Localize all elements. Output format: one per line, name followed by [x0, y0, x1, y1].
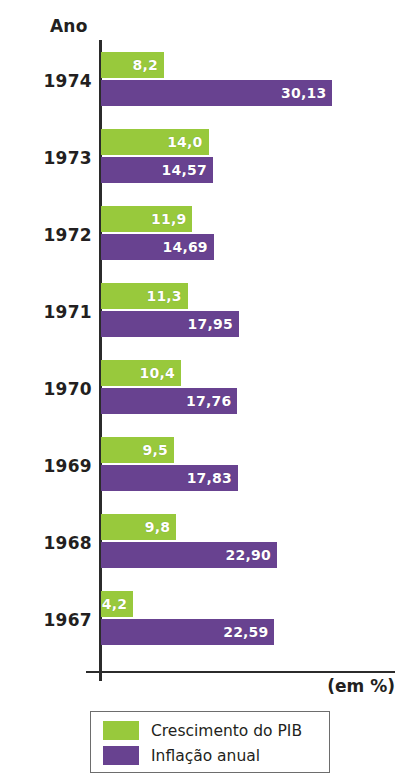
bar-inflacao-1974: 30,13	[101, 80, 332, 106]
bar-group: 19748,230,13	[0, 52, 417, 106]
bar-inflacao-1968: 22,90	[101, 542, 277, 568]
bar-pib-1969: 9,5	[101, 437, 174, 463]
bar-group: 197211,914,69	[0, 206, 417, 260]
bar-pib-1973: 14,0	[101, 129, 209, 155]
bar-value-label: 11,3	[146, 288, 181, 304]
bar-group: 19699,517,83	[0, 437, 417, 491]
legend-label-crescimento-do-pib: Crescimento do PIB	[151, 722, 302, 740]
bar-pib-1974: 8,2	[101, 52, 164, 78]
bar-group: 19674,222,59	[0, 591, 417, 645]
bar-value-label: 11,9	[151, 211, 186, 227]
axis-header-ano: Ano	[50, 16, 96, 36]
bar-inflacao-1969: 17,83	[101, 465, 238, 491]
bar-value-label: 4,2	[102, 596, 127, 612]
bar-group: 197010,417,76	[0, 360, 417, 414]
category-label-1971: 1971	[10, 302, 92, 322]
chart-legend: Crescimento do PIB Inflação anual	[90, 711, 330, 773]
bar-pib-1972: 11,9	[101, 206, 192, 232]
unit-note: (em %)	[327, 676, 395, 696]
bar-inflacao-1967: 22,59	[101, 619, 274, 645]
chart-container: Ano 19748,230,13197314,014,57197211,914,…	[0, 0, 417, 783]
bar-group: 197111,317,95	[0, 283, 417, 337]
bar-group: 197314,014,57	[0, 129, 417, 183]
legend-item-crescimento-do-pib: Crescimento do PIB	[103, 718, 329, 743]
bar-value-label: 14,0	[167, 134, 202, 150]
bar-value-label: 14,57	[162, 162, 207, 178]
plot-area: 19748,230,13197314,014,57197211,914,6919…	[0, 40, 417, 672]
bar-value-label: 22,59	[223, 624, 268, 640]
bar-value-label: 30,13	[281, 85, 326, 101]
bar-value-label: 17,76	[186, 393, 231, 409]
bar-value-label: 9,5	[143, 442, 168, 458]
bar-pib-1967: 4,2	[101, 591, 133, 617]
value-axis-origin-tick	[99, 661, 102, 681]
bar-value-label: 10,4	[140, 365, 175, 381]
bar-pib-1970: 10,4	[101, 360, 181, 386]
category-label-1967: 1967	[10, 610, 92, 630]
category-label-1973: 1973	[10, 148, 92, 168]
category-label-1972: 1972	[10, 225, 92, 245]
bar-pib-1968: 9,8	[101, 514, 176, 540]
bar-inflacao-1973: 14,57	[101, 157, 213, 183]
category-label-1968: 1968	[10, 533, 92, 553]
bar-value-label: 17,95	[188, 316, 233, 332]
bar-value-label: 14,69	[163, 239, 208, 255]
value-axis-line	[86, 671, 395, 673]
bar-inflacao-1970: 17,76	[101, 388, 237, 414]
category-label-1969: 1969	[10, 456, 92, 476]
legend-label-inflacao-anual: Inflação anual	[151, 747, 260, 765]
legend-swatch-purple-icon	[103, 746, 139, 765]
legend-item-inflacao-anual: Inflação anual	[103, 743, 329, 768]
bar-value-label: 22,90	[226, 547, 271, 563]
category-label-1970: 1970	[10, 379, 92, 399]
bar-value-label: 17,83	[187, 470, 232, 486]
bar-inflacao-1971: 17,95	[101, 311, 239, 337]
category-label-1974: 1974	[10, 71, 92, 91]
bar-inflacao-1972: 14,69	[101, 234, 214, 260]
bar-value-label: 8,2	[133, 57, 158, 73]
bar-value-label: 9,8	[145, 519, 170, 535]
legend-swatch-green-icon	[103, 721, 139, 740]
bar-group: 19689,822,90	[0, 514, 417, 568]
bar-pib-1971: 11,3	[101, 283, 188, 309]
